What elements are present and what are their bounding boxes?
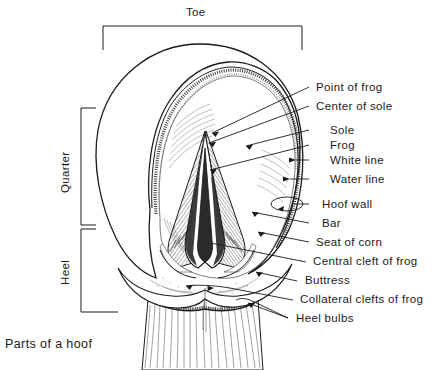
callout-hoof-wall: Hoof wall xyxy=(322,199,372,211)
callout-center-of-sole: Center of sole xyxy=(316,101,393,113)
callout-sole: Sole xyxy=(330,125,354,137)
callout-central-cleft-of-frog: Central cleft of frog xyxy=(313,256,418,268)
callout-buttress: Buttress xyxy=(305,275,350,287)
pastern-leg xyxy=(142,300,263,370)
callout-white-line: White line xyxy=(330,155,384,167)
figure-caption: Parts of a hoof xyxy=(5,337,92,351)
callout-frog: Frog xyxy=(330,140,355,152)
callout-point-of-frog: Point of frog xyxy=(316,82,383,94)
callout-heel-bulbs: Heel bulbs xyxy=(296,313,354,325)
bracket-label-heel: Heel xyxy=(60,260,72,285)
bracket-label-toe: Toe xyxy=(186,6,206,18)
quarter-bracket xyxy=(81,108,96,225)
callout-water-line: Water line xyxy=(330,174,385,186)
bracket-label-quarter: Quarter xyxy=(60,152,72,193)
callout-seat-of-corn: Seat of corn xyxy=(316,237,382,249)
callout-collateral-clefts-of-frog: Collateral clefts of frog xyxy=(300,294,423,306)
heel-bracket xyxy=(81,229,118,312)
callout-bar: Bar xyxy=(322,218,341,230)
hoof-anatomy-figure: Toe Quarter Heel Point of frog Center of… xyxy=(0,0,441,370)
